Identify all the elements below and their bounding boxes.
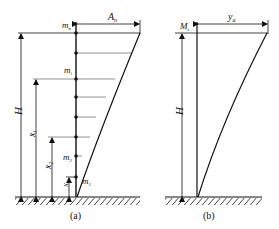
cantilever-diagram: An H xi x2 x1 mn mi m2 m1 [0,0,279,229]
ground-a [15,197,140,205]
height-label-a: H [12,106,24,116]
mass-i-label-a: mi [64,65,73,76]
top-displacement-dimension-a [77,20,140,34]
panel-b: ya Mt H (b) [165,11,268,222]
ground-b [165,197,262,205]
x1-label-a: x1 [60,181,71,189]
caption-a: (a) [70,210,81,222]
level-lines-a [33,53,132,156]
top-displacement-label-a: An [107,11,117,23]
panel-a: An H xi x2 x1 mn mi m2 m1 [12,11,140,222]
height-label-b: H [173,106,185,116]
mass-label-b: Mt [179,21,190,32]
mass-n-label-a: mn [62,20,72,31]
deflection-curve-a [77,33,140,197]
xi-label-a: xi [26,131,38,138]
x2-label-a: x2 [42,162,54,170]
mass-2-label-a: m2 [63,152,73,163]
top-displacement-label-b: ya [227,11,235,23]
caption-b: (b) [203,210,215,222]
mass-1-label-a: m1 [82,176,91,187]
deflection-curve-b [198,33,267,197]
